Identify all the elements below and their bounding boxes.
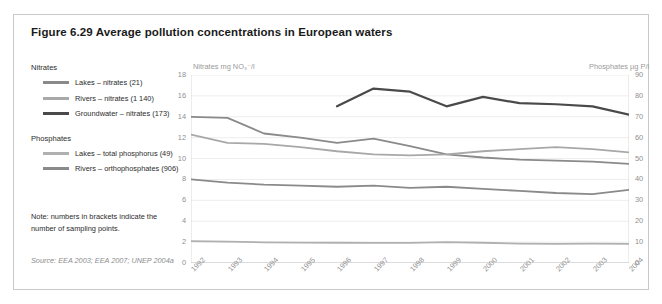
legend-item-label: Rivers – nitrates (1 140) (75, 94, 154, 103)
y-axis-right-tick-label: 10 (635, 237, 653, 246)
legend-swatch-icon (43, 167, 69, 170)
y-axis-right-tick-label: 50 (635, 154, 653, 163)
y-axis-left-tick-label: 12 (168, 133, 186, 142)
figure-panel: Figure 6.29 Average pollution concentrat… (13, 14, 649, 290)
legend-group-title-nitrates: Nitrates (31, 63, 181, 72)
y-axis-left-tick-label: 2 (168, 237, 186, 246)
legend-item-label: Rivers – orthophosphates (906) (75, 164, 179, 173)
legend-item-label: Groundwater – nitrates (173) (75, 109, 169, 118)
y-axis-left-tick-label: 4 (168, 216, 186, 225)
legend-swatch-icon (43, 152, 69, 155)
legend-item-lakes-total-phosphorus[interactable]: Lakes – total phosphorus (49) (31, 149, 181, 158)
y-axis-left-tick-label: 18 (168, 70, 186, 79)
chart-note: Note: numbers in brackets indicate the n… (31, 211, 181, 234)
x-axis-tick-label: 2004 (627, 255, 645, 273)
y-axis-left-tick-label: 10 (168, 154, 186, 163)
legend-spacer (31, 125, 181, 134)
chart-line-series (191, 179, 629, 194)
y-axis-right-tick-label: 60 (635, 133, 653, 142)
y-axis-left-tick-label: 14 (168, 112, 186, 121)
chart-gridlines (191, 75, 629, 263)
y-axis-right-tick-label: 70 (635, 112, 653, 121)
y-axis-left-tick-label: 16 (168, 91, 186, 100)
y-axis-right-tick-label: 40 (635, 174, 653, 183)
y-axis-right-tick-label: 30 (635, 195, 653, 204)
legend-swatch-icon (43, 97, 69, 100)
y-axis-left-tick-label: 0 (168, 258, 186, 267)
legend-item-rivers-orthophosphates[interactable]: Rivers – orthophosphates (906) (31, 164, 181, 173)
y-axis-right-tick-label: 90 (635, 70, 653, 79)
legend-item-rivers-nitrates[interactable]: Rivers – nitrates (1 140) (31, 94, 181, 103)
chart-svg (191, 75, 629, 263)
legend-item-lakes-nitrates[interactable]: Lakes – nitrates (21) (31, 78, 181, 87)
y-axis-left-tick-label: 6 (168, 195, 186, 204)
chart-plot-area (191, 75, 629, 263)
legend-item-groundwater-nitrates[interactable]: Groundwater – nitrates (173) (31, 109, 181, 118)
legend-item-label: Lakes – nitrates (21) (75, 78, 142, 87)
y-axis-left-title: Nitrates mg NO₃⁻/l (193, 62, 255, 71)
chart-line-series (337, 89, 629, 115)
chart-line-series (191, 117, 629, 164)
legend-swatch-icon (43, 112, 69, 115)
legend-item-label: Lakes – total phosphorus (49) (75, 149, 173, 158)
legend-swatch-icon (43, 81, 69, 84)
chart-source: Source: EEA 2003; EEA 2007; UNEP 2004a (31, 256, 191, 267)
chart-series-group (191, 89, 629, 244)
chart-legend: Nitrates Lakes – nitrates (21) Rivers – … (31, 63, 181, 180)
figure-title: Figure 6.29 Average pollution concentrat… (31, 26, 392, 38)
y-axis-left-tick-label: 8 (168, 174, 186, 183)
y-axis-right-tick-label: 80 (635, 91, 653, 100)
legend-group-title-phosphates: Phosphates (31, 134, 181, 143)
y-axis-right-tick-label: 20 (635, 216, 653, 225)
